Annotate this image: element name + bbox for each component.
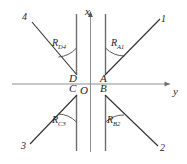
angle-label-A1: RA1 xyxy=(111,38,124,51)
ray-endpoint-label-1: 1 xyxy=(161,14,166,24)
y-axis-arrowhead xyxy=(165,82,171,87)
ray-endpoint-label-2: 2 xyxy=(160,143,165,153)
y-axis-label: y xyxy=(173,86,178,97)
angle-label-B2-sub: B2 xyxy=(113,120,120,127)
point-label-D: D xyxy=(69,73,77,84)
angle-label-A1-sub: A1 xyxy=(117,43,124,50)
ray-endpoint-label-3: 3 xyxy=(21,141,26,151)
angle-label-D4-sub: D4 xyxy=(58,43,66,50)
x-axis-label: x xyxy=(85,6,90,17)
point-label-C: C xyxy=(69,83,76,94)
point-label-B: B xyxy=(100,83,107,94)
angle-label-D4: RD4 xyxy=(52,38,66,51)
angle-label-C3-sub: C3 xyxy=(58,120,66,127)
figure-canvas: x y O A B C D 1 2 3 4 RA1 RB2 RC3 RD4 xyxy=(0,0,187,164)
ray-endpoint-label-4: 4 xyxy=(22,12,27,22)
axes-group xyxy=(12,11,170,152)
angle-label-B2: RB2 xyxy=(107,115,120,128)
angle-label-C3: RC3 xyxy=(52,115,66,128)
diagram-svg xyxy=(0,0,187,164)
origin-label: O xyxy=(80,85,88,96)
